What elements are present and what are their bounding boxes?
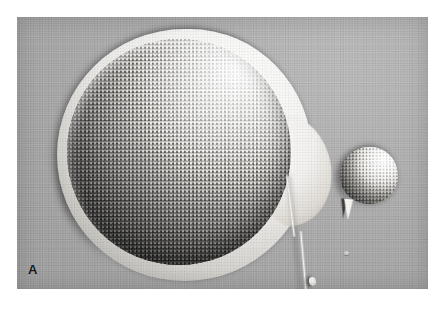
wedge-fragment-lit-face [342,199,353,221]
figure-plate: A [0,0,445,309]
wedge-fragment [338,198,356,222]
small-cell-shading [340,147,398,204]
small-cell-granular-body [340,147,398,204]
large-cell-granular-core [67,39,291,265]
panel-label: A [28,263,38,276]
micrograph-image: A [17,17,428,289]
substrate-speck [344,251,349,255]
large-cell-rim-light [67,39,291,265]
